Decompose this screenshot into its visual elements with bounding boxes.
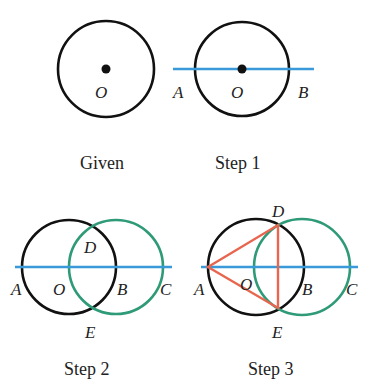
panel-given: O Given <box>58 21 154 173</box>
label-a: A <box>10 280 22 299</box>
panel-step-2: D A O B C E Step 2 <box>10 220 172 379</box>
label-e: E <box>84 323 96 342</box>
label-o: O <box>95 83 107 102</box>
caption-step-3: Step 3 <box>248 359 294 379</box>
center-point <box>102 65 111 74</box>
label-a: A <box>172 83 184 102</box>
label-d: D <box>271 202 285 221</box>
label-b: B <box>117 280 128 299</box>
label-o: O <box>53 280 65 299</box>
label-o: O <box>231 83 243 102</box>
construction-diagram: O Given A O B Step 1 D A O B C E Step 2 … <box>0 0 372 392</box>
label-o: O <box>240 275 252 294</box>
label-d: D <box>83 238 97 257</box>
label-a: A <box>193 280 205 299</box>
panel-step-1: A O B Step 1 <box>172 22 314 173</box>
label-b: B <box>302 280 313 299</box>
panel-step-3: D A O B C E Step 3 <box>193 202 358 379</box>
caption-step-2: Step 2 <box>64 359 110 379</box>
center-point <box>238 65 247 74</box>
label-e: E <box>271 323 283 342</box>
caption-step-1: Step 1 <box>215 153 261 173</box>
caption-given: Given <box>80 153 124 173</box>
label-c: C <box>346 280 358 299</box>
diagram-canvas: O Given A O B Step 1 D A O B C E Step 2 … <box>0 0 372 392</box>
label-b: B <box>298 83 309 102</box>
label-c: C <box>160 280 172 299</box>
